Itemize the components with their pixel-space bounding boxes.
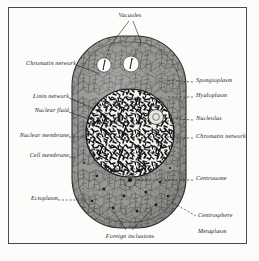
label-centrosome: Centrosome: [196, 176, 227, 182]
foreign-inclusion: [91, 200, 94, 203]
label-spongioplasm: Spongioplasm: [196, 78, 232, 84]
label-chromatin-network-right: Chromatin network: [196, 134, 246, 140]
foreign-inclusion: [83, 162, 85, 164]
label-vacuoles: Vacuoles: [100, 13, 160, 19]
foreign-inclusion: [96, 175, 98, 177]
label-metaplasm: Metaplasm: [198, 229, 226, 235]
foreign-inclusion: [155, 204, 158, 207]
chromatin-network: [87, 90, 174, 177]
label-ectoplasm: Ectoplasm: [8, 196, 58, 202]
label-hyaloplasm: Hyaloplasm: [196, 93, 227, 99]
figure-plate: Vacuoles Chromatin network Linin network…: [0, 0, 259, 261]
label-nuclear-fluid: Nuclear fluid: [4, 108, 69, 114]
nucleus: [86, 89, 174, 178]
label-foreign-inclusions: Foreign inclusions: [99, 234, 161, 240]
cell-diagram: [0, 0, 259, 261]
foreign-inclusion: [123, 195, 126, 198]
foreign-inclusion: [167, 195, 169, 197]
foreign-inclusion: [159, 181, 162, 184]
nucleolus: [149, 110, 164, 125]
centrosome: [128, 178, 132, 182]
foreign-inclusion: [112, 207, 115, 210]
label-centrosphere: Centrosphere: [198, 213, 233, 219]
foreign-inclusion: [145, 191, 148, 194]
label-cell-membrane: Cell membrane: [4, 153, 69, 159]
label-linin-network: Linin network: [4, 94, 69, 100]
label-chromatin-network-left: Chromatin network: [4, 61, 76, 67]
foreign-inclusion: [103, 188, 106, 191]
label-nucleolus: Nucleolus: [196, 116, 222, 122]
foreign-inclusion: [169, 167, 171, 169]
label-nuclear-membrane: Nuclear membrane: [1, 133, 69, 139]
foreign-inclusion: [136, 210, 139, 213]
centrosome-group: [120, 170, 140, 190]
